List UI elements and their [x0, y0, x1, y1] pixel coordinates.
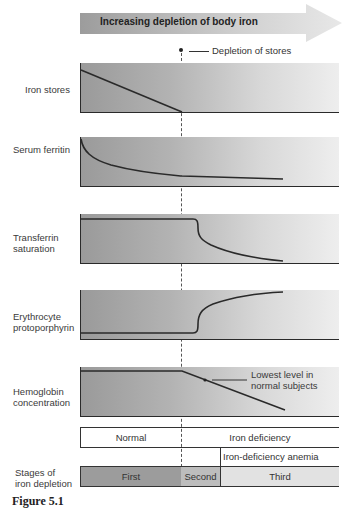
- iron-stores-label: Iron stores: [25, 84, 70, 95]
- protoporphyrin-label-line2: protoporphyrin: [13, 322, 74, 333]
- stages-label-line1: Stages of: [15, 467, 72, 478]
- status-deficiency-label: Iron deficiency: [229, 432, 290, 443]
- stage-first: First: [80, 466, 181, 487]
- transferrin-label-line1: Transferrin: [13, 232, 59, 243]
- stage-third-label: Third: [269, 471, 291, 482]
- depletion-marker-dot: [179, 48, 183, 52]
- serum-ferritin-label: Serum ferritin: [13, 144, 70, 155]
- transferrin-saturation-label: Transferrin saturation: [13, 232, 59, 254]
- status-normal-box: Normal: [80, 427, 181, 448]
- transferrin-label-line2: saturation: [13, 243, 59, 254]
- erythrocyte-protoporphyrin-curve: [81, 290, 340, 340]
- stages-row-label: Stages of iron depletion: [15, 467, 72, 489]
- arrow-label: Increasing depletion of body iron: [100, 16, 258, 27]
- annotation-line2: normal subjects: [251, 380, 318, 391]
- lowest-normal-marker-icon: [203, 378, 206, 381]
- serum-ferritin-curve: [81, 137, 340, 187]
- stages-label-line2: iron depletion: [15, 478, 72, 489]
- depletion-dashed-line: [181, 53, 182, 487]
- figure-caption: Figure 5.1: [12, 494, 64, 509]
- depletion-marker-label: Depletion of stores: [212, 45, 291, 56]
- hemoglobin-label-line2: concentration: [13, 397, 70, 408]
- stage-second: Second: [181, 466, 220, 487]
- annotation-line1: Lowest level in: [251, 369, 318, 380]
- status-anemia-label: Iron-deficiency anemia: [223, 451, 319, 462]
- status-deficiency-box: Iron deficiency: [181, 427, 339, 448]
- hemoglobin-concentration-label: Hemoglobin concentration: [13, 386, 70, 408]
- hemoglobin-label-line1: Hemoglobin: [13, 386, 70, 397]
- lowest-normal-annotation: Lowest level in normal subjects: [251, 369, 318, 391]
- iron-stores-curve: [81, 63, 340, 113]
- stage-second-label: Second: [184, 471, 216, 482]
- erythrocyte-protoporphyrin-label: Erythrocyte protoporphyrin: [13, 311, 74, 333]
- protoporphyrin-label-line1: Erythrocyte: [13, 311, 74, 322]
- transferrin-saturation-panel: [80, 214, 339, 264]
- iron-stores-panel: [80, 63, 339, 113]
- erythrocyte-protoporphyrin-panel: [80, 290, 339, 340]
- stage-first-label: First: [122, 471, 140, 482]
- depletion-marker-leader: [189, 51, 209, 52]
- status-normal-label: Normal: [116, 432, 147, 443]
- serum-ferritin-panel: [80, 137, 339, 187]
- transferrin-saturation-curve: [81, 214, 340, 264]
- stage-third: Third: [220, 466, 339, 487]
